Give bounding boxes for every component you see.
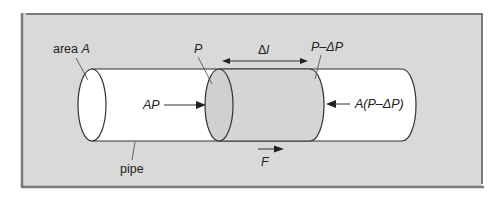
pipe-label: pipe: [120, 162, 144, 176]
force-ap-label: AP: [142, 98, 160, 112]
pipe-pressure-diagram: area A pipe P Δl P–ΔP AP A(P–ΔP) F: [0, 0, 502, 200]
p-label: P: [194, 42, 203, 56]
force-apdp-label: A(P–ΔP): [354, 97, 404, 111]
cross-section-p: [205, 69, 233, 141]
pipe-left-opening: [78, 69, 106, 141]
fluid-segment: [219, 69, 324, 141]
delta-l-label: Δl: [258, 43, 270, 57]
area-label: area A: [53, 42, 90, 56]
p-minus-dp-label: P–ΔP: [311, 40, 344, 54]
